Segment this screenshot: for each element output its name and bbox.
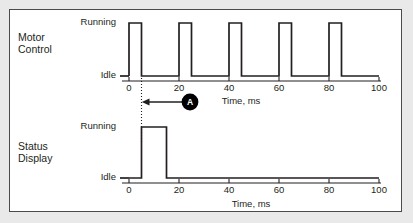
motor-control-row-label-line1: Motor bbox=[18, 32, 52, 44]
bottom-tick-80: 80 bbox=[314, 185, 344, 196]
waveform-canvas bbox=[0, 0, 413, 223]
top-tick-0: 0 bbox=[114, 83, 144, 94]
bottom-running-label: Running bbox=[58, 121, 116, 132]
status-display-waveform bbox=[129, 127, 379, 178]
timing-diagram-figure: Motor Control Running Idle 0 20 40 60 80… bbox=[0, 0, 413, 223]
bottom-axis-ticks bbox=[129, 179, 379, 183]
status-display-row-label-line1: Status bbox=[18, 141, 52, 153]
motor-control-row-label: Motor Control bbox=[18, 32, 52, 56]
top-idle-label: Idle bbox=[58, 70, 116, 81]
callout-arrow-head bbox=[142, 99, 150, 106]
top-axis-title: Time, ms bbox=[206, 96, 276, 107]
bottom-tick-60: 60 bbox=[264, 185, 294, 196]
bottom-tick-100: 100 bbox=[364, 185, 394, 196]
bottom-axis-title: Time, ms bbox=[216, 199, 286, 210]
motor-control-waveform bbox=[129, 23, 379, 76]
top-running-label: Running bbox=[58, 17, 116, 28]
status-display-row-label: Status Display bbox=[18, 141, 52, 165]
bottom-tick-20: 20 bbox=[164, 185, 194, 196]
top-tick-20: 20 bbox=[164, 83, 194, 94]
bottom-tick-0: 0 bbox=[114, 185, 144, 196]
top-axis-ticks bbox=[129, 77, 379, 81]
top-tick-80: 80 bbox=[314, 83, 344, 94]
status-display-row-label-line2: Display bbox=[18, 153, 52, 165]
bottom-idle-label: Idle bbox=[58, 172, 116, 183]
motor-control-row-label-line2: Control bbox=[18, 44, 52, 56]
callout-badge-label: A bbox=[182, 98, 198, 107]
top-tick-60: 60 bbox=[264, 83, 294, 94]
top-tick-100: 100 bbox=[364, 83, 394, 94]
top-tick-40: 40 bbox=[214, 83, 244, 94]
bottom-tick-40: 40 bbox=[214, 185, 244, 196]
